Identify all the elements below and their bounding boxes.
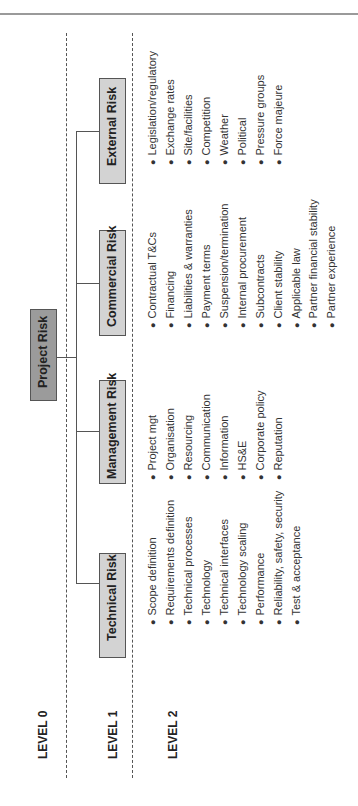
list-item: ●Corporate policy xyxy=(254,390,266,480)
connector-commercial xyxy=(76,283,99,284)
bullet-icon: ● xyxy=(238,620,248,625)
level-0-label: LEVEL 0 xyxy=(36,711,50,759)
bullet-icon: ● xyxy=(148,160,158,165)
bullet-icon: ● xyxy=(166,475,176,480)
bullet-icon: ● xyxy=(202,620,212,625)
bullet-icon: ● xyxy=(184,620,194,625)
technical-risk-label: Technical Risk xyxy=(105,554,119,641)
bullet-icon: ● xyxy=(148,620,158,625)
level-separator-1-2 xyxy=(132,33,133,778)
level-1-label: LEVEL 1 xyxy=(106,711,120,759)
management-risk-label: Management Risk xyxy=(105,373,119,479)
list-item: ●Technical processes xyxy=(182,517,194,626)
connector-management xyxy=(76,431,99,432)
bullet-icon: ● xyxy=(184,323,194,328)
list-item: ●Site/facilities xyxy=(182,94,194,165)
bullet-icon: ● xyxy=(184,160,194,165)
list-item: ●Applicable law xyxy=(290,248,302,328)
list-item: ●Pressure groups xyxy=(254,75,266,165)
bullet-icon: ● xyxy=(327,323,337,328)
list-item: ●Liabilities & warranties xyxy=(182,209,194,328)
bullet-icon: ● xyxy=(274,160,284,165)
list-item: ●Subcontracts xyxy=(254,254,266,328)
list-item: ●Political xyxy=(236,118,248,165)
list-item: ●Information xyxy=(218,416,230,480)
list-item: ●Partner financial stability xyxy=(307,199,319,328)
list-item: ●Payment terms xyxy=(200,245,212,328)
list-item: ●Scope definition xyxy=(146,537,158,625)
list-item: ●Resourcing xyxy=(182,415,194,480)
bullet-icon: ● xyxy=(166,160,176,165)
bullet-icon: ● xyxy=(274,475,284,480)
bullet-icon: ● xyxy=(238,323,248,328)
commercial-risk-label: Commercial Risk xyxy=(105,226,119,327)
bullet-icon: ● xyxy=(220,323,230,328)
list-item: ●Force majeure xyxy=(272,85,284,165)
connector-technical xyxy=(76,583,99,584)
bullet-icon: ● xyxy=(238,160,248,165)
list-item: ●Organisation xyxy=(164,408,176,480)
list-item: ●Reputation xyxy=(272,417,284,480)
level-2-label: LEVEL 2 xyxy=(166,711,180,759)
bullet-icon: ● xyxy=(220,160,230,165)
bullet-icon: ● xyxy=(202,160,212,165)
bullet-icon: ● xyxy=(292,620,302,625)
bullet-icon: ● xyxy=(256,323,266,328)
bullet-icon: ● xyxy=(148,475,158,480)
connector-external xyxy=(76,131,99,132)
list-item: ●Contractual T&Cs xyxy=(146,232,158,328)
list-item: ●Financing xyxy=(164,271,176,328)
bullet-icon: ● xyxy=(256,475,266,480)
bullet-icon: ● xyxy=(256,620,266,625)
root-connector xyxy=(57,357,77,358)
bullet-icon: ● xyxy=(202,323,212,328)
list-item: ●Exchange rates xyxy=(164,79,176,165)
list-item: ●Partner experience xyxy=(325,226,337,328)
list-item: ●Technical interfaces xyxy=(218,519,230,625)
list-item: ●Performance xyxy=(254,553,266,625)
list-item: ●Test & acceptance xyxy=(290,526,302,625)
bullet-icon: ● xyxy=(220,620,230,625)
list-item: ●Internal procurement xyxy=(236,217,248,328)
bullet-icon: ● xyxy=(309,323,319,328)
bullet-icon: ● xyxy=(202,475,212,480)
bullet-icon: ● xyxy=(238,475,248,480)
list-item: ●Weather xyxy=(218,114,230,165)
list-item: ●Technology scaling xyxy=(236,523,248,625)
bullet-icon: ● xyxy=(148,323,158,328)
bullet-icon: ● xyxy=(184,475,194,480)
list-item: ●Client stability xyxy=(272,251,284,328)
list-item: ●Project mgt xyxy=(146,415,158,480)
list-item: ●Communication xyxy=(200,394,212,480)
bullet-icon: ● xyxy=(292,323,302,328)
list-item: ●Technology xyxy=(200,560,212,625)
bullet-icon: ● xyxy=(166,323,176,328)
list-item: ●Suspension/termination xyxy=(218,204,230,328)
bullet-icon: ● xyxy=(274,323,284,328)
bullet-icon: ● xyxy=(274,620,284,625)
list-item: ●HS&E xyxy=(236,441,248,480)
list-item: ●Reliability, safety, security xyxy=(272,491,284,625)
bullet-icon: ● xyxy=(166,620,176,625)
list-item: ●Legislation/regulatory xyxy=(146,51,158,165)
level-separator-0-1 xyxy=(66,33,67,778)
top-border-line xyxy=(0,13,358,15)
project-risk-label: Project Risk xyxy=(36,316,50,388)
bullet-icon: ● xyxy=(256,160,266,165)
trunk-line xyxy=(76,131,77,584)
list-item: ●Requirements definition xyxy=(164,500,176,625)
external-risk-label: External Risk xyxy=(105,87,119,166)
list-item: ●Competition xyxy=(200,97,212,165)
bullet-icon: ● xyxy=(220,475,230,480)
